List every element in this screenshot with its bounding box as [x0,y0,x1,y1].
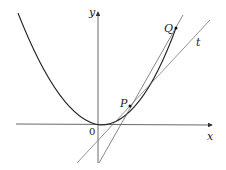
point-q [175,27,178,30]
point-p-label: P [119,97,128,110]
tangent-label: t [196,36,201,49]
x-axis-label: x [207,130,214,143]
point-p [129,105,132,108]
diagram-canvas: y x 0 P Q t [0,0,226,170]
tangent-line [77,20,210,163]
origin-label: 0 [89,126,95,137]
secant-line [99,15,183,163]
x-axis [16,124,212,125]
y-axis-label: y [88,6,96,19]
point-q-label: Q [164,22,173,35]
